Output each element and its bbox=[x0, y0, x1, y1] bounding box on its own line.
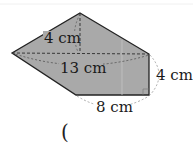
answer-open-paren: ( bbox=[61, 122, 69, 142]
pentagon-figure: 4 cm 13 cm 4 cm 8 cm bbox=[0, 0, 193, 146]
right-side-label: 4 cm bbox=[156, 66, 193, 84]
bottom-side-label: 8 cm bbox=[96, 98, 133, 116]
diagonal-label: 13 cm bbox=[60, 59, 106, 77]
height-label: 4 cm bbox=[44, 29, 81, 47]
